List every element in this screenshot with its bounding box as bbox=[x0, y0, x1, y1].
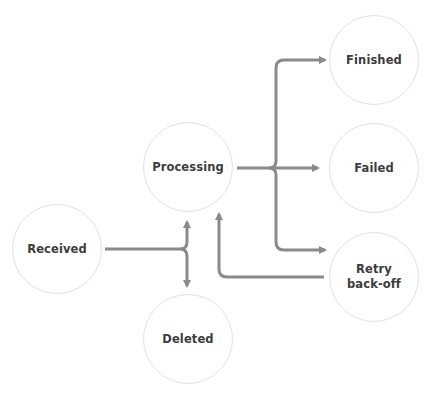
node-finished: Finished bbox=[329, 15, 419, 105]
node-deleted: Deleted bbox=[143, 294, 233, 384]
node-label: Failed bbox=[354, 161, 393, 176]
node-received: Received bbox=[12, 204, 102, 294]
arrow-received-to-processing bbox=[105, 222, 187, 249]
node-label: Retry back-off bbox=[338, 262, 410, 292]
arrow-retry-to-processing bbox=[219, 214, 324, 277]
node-label: Deleted bbox=[162, 332, 213, 347]
node-processing: Processing bbox=[143, 122, 233, 212]
node-label: Processing bbox=[152, 160, 224, 175]
node-label: Finished bbox=[346, 53, 402, 68]
arrow-received-to-deleted bbox=[180, 249, 187, 286]
arrow-processing-to-finished bbox=[237, 60, 325, 168]
arrow-processing-to-retry bbox=[269, 168, 325, 250]
node-label: Received bbox=[27, 242, 87, 257]
node-retry-back-off: Retry back-off bbox=[329, 232, 419, 322]
node-failed: Failed bbox=[329, 123, 419, 213]
